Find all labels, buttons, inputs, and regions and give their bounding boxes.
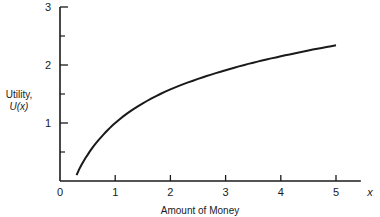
x-axis-title: Amount of Money [161,205,239,216]
utility-chart: 012345123 Utility, U(x) Amount of Money … [0,0,380,217]
y-tick-label: 3 [45,1,51,13]
axes [60,7,361,181]
x-tick-label: 0 [57,186,63,198]
y-axis-symbol: U(x) [10,101,29,112]
x-tick-label: 3 [223,186,229,198]
x-tick-label: 1 [112,186,118,198]
y-axis-title: Utility, [6,89,32,100]
y-tick-label: 2 [45,59,51,71]
x-tick-label: 5 [333,186,339,198]
utility-curve [77,45,336,175]
x-tick-label: 4 [278,186,284,198]
ticks: 012345123 [45,1,339,198]
y-tick-label: 1 [45,117,51,129]
x-tick-label: 2 [167,186,173,198]
x-axis-symbol: x [366,186,373,198]
